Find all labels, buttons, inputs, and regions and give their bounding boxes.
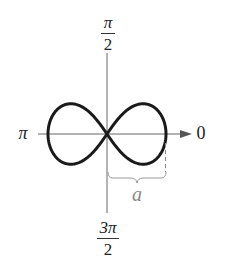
label-denominator: 2 (104, 36, 113, 53)
arrowhead-icon (180, 130, 192, 138)
fraction-bar (97, 238, 119, 239)
length-brace (108, 172, 166, 183)
label-numerator: π (104, 14, 113, 31)
length-label-a: a (129, 184, 145, 204)
fraction-bar (101, 33, 115, 34)
label-numerator: 3π (99, 219, 116, 236)
angle-label-pi-over-2: π 2 (97, 14, 119, 53)
angle-label-3pi-over-2: 3π 2 (93, 219, 123, 258)
angle-label-zero: 0 (194, 124, 208, 142)
angle-label-pi: π (15, 124, 31, 142)
label-denominator: 2 (104, 241, 113, 258)
